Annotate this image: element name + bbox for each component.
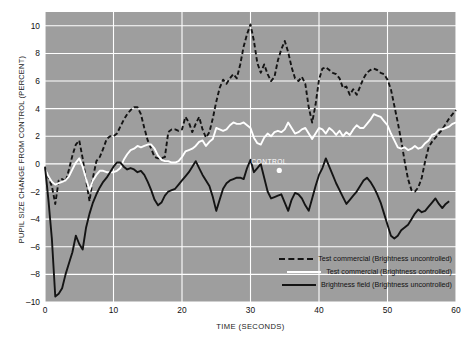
legend-swatch — [282, 284, 316, 286]
chart-figure: PUPIL SIZE CHANGE FROM CONTROL (PERCENT)… — [0, 0, 469, 342]
legend-swatch — [287, 271, 321, 273]
legend-label: Brightness field (Brightness uncontrolle… — [321, 280, 452, 289]
legend-label: Test commercial (Brightness controlled) — [326, 267, 452, 276]
legend-swatch — [279, 258, 313, 260]
chart-legend: Test commercial (Brightness uncontrolled… — [232, 252, 452, 291]
legend-item: Test commercial (Brightness uncontrolled… — [232, 252, 452, 265]
legend-label: Test commercial (Brightness uncontrolled… — [318, 254, 452, 263]
legend-item: Test commercial (Brightness controlled) — [232, 265, 452, 278]
control-marker-dot — [277, 168, 282, 173]
legend-item: Brightness field (Brightness uncontrolle… — [232, 278, 452, 291]
control-annotation-label: CONTROL — [251, 158, 287, 165]
